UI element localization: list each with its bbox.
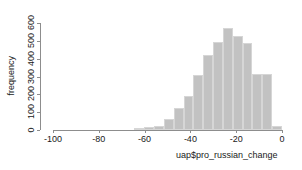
- x-tick-mark: [145, 130, 146, 133]
- histogram-bar: [213, 42, 223, 130]
- y-tick-label: 500: [26, 34, 36, 48]
- y-axis-line: [40, 23, 41, 130]
- x-tick-mark: [282, 130, 283, 133]
- histogram-bar: [223, 28, 233, 130]
- x-tick-mark: [99, 130, 100, 133]
- x-tick-label: -40: [170, 134, 210, 145]
- x-tick-label: 0: [262, 134, 302, 145]
- x-tick-mark: [53, 130, 54, 133]
- histogram-bar: [203, 55, 213, 130]
- y-tick-mark: [37, 23, 40, 24]
- x-tick-label: -20: [216, 134, 256, 145]
- plot-area: [45, 18, 290, 130]
- histogram-bar: [154, 126, 164, 130]
- x-tick-mark: [190, 130, 191, 133]
- histogram-bar: [174, 108, 184, 130]
- histogram-bar: [164, 119, 174, 130]
- x-tick-label: -100: [33, 134, 73, 145]
- histogram-bar: [233, 36, 243, 130]
- y-axis-label: frequency: [6, 56, 16, 96]
- y-tick-mark: [37, 130, 40, 131]
- histogram-figure: frequency 0100200300400500600 -100-80-60…: [0, 0, 302, 170]
- x-axis-label: uap$pro_russian_change: [176, 150, 278, 161]
- y-tick-mark: [37, 94, 40, 95]
- y-tick-label: 400: [26, 52, 36, 66]
- x-tick-label: -60: [125, 134, 165, 145]
- histogram-bar: [134, 128, 144, 130]
- x-tick-label: -80: [79, 134, 119, 145]
- histogram-bar: [144, 127, 154, 130]
- y-tick-mark: [37, 59, 40, 60]
- histogram-bar: [262, 74, 272, 130]
- histogram-bar: [272, 126, 282, 130]
- histogram-bar: [193, 75, 203, 130]
- y-tick-mark: [37, 112, 40, 113]
- y-tick-label: 300: [26, 70, 36, 84]
- y-tick-label: 100: [26, 105, 36, 119]
- histogram-bar: [184, 96, 194, 130]
- y-tick-label: 600: [26, 16, 36, 30]
- histogram-bar: [243, 43, 253, 130]
- y-tick-label: 200: [26, 87, 36, 101]
- y-tick-mark: [37, 77, 40, 78]
- y-tick-mark: [37, 41, 40, 42]
- histogram-bar: [252, 74, 262, 130]
- histogram-bars: [45, 18, 290, 130]
- x-axis-line: [53, 130, 282, 131]
- x-tick-mark: [236, 130, 237, 133]
